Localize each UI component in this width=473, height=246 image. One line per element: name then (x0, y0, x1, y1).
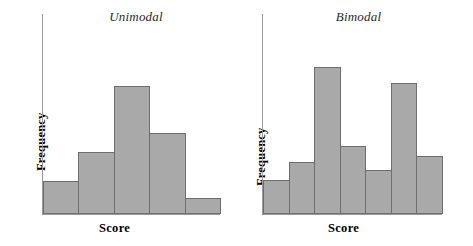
bar-group-unimodal (43, 14, 220, 214)
histogram-bar (365, 170, 392, 214)
histogram-bar (263, 180, 290, 214)
x-axis-label-unimodal: Score (99, 221, 130, 236)
histogram-bar (314, 67, 341, 214)
plot-area-unimodal (42, 14, 220, 215)
histogram-bar (289, 162, 316, 214)
histogram-bar (391, 83, 418, 214)
panel-bimodal: Bimodal Frequency Score (236, 0, 473, 246)
histogram-bar (149, 133, 185, 214)
panel-unimodal: Unimodal Frequency Score (0, 0, 236, 246)
histogram-bar (43, 181, 79, 214)
x-axis-line-bimodal (262, 214, 442, 215)
histogram-bar (416, 156, 443, 214)
histogram-bar (340, 146, 367, 214)
histogram-bar (185, 198, 221, 214)
x-axis-line-unimodal (42, 214, 220, 215)
figure-histogram-shapes: Unimodal Frequency Score Bimodal Frequen… (0, 0, 473, 246)
plot-area-bimodal (262, 14, 442, 215)
histogram-bar (78, 152, 114, 214)
x-axis-label-bimodal: Score (328, 221, 359, 236)
histogram-bar (114, 86, 150, 214)
bar-group-bimodal (263, 14, 442, 214)
